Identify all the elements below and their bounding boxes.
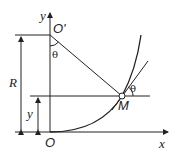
diagram: y x O O' R y M θ θ (0, 0, 177, 152)
radius-label: R (8, 75, 17, 90)
angle-arc-top (50, 42, 58, 46)
origin-label: O (45, 135, 55, 150)
point-label: M (118, 98, 129, 113)
height-label: y (25, 106, 33, 121)
y-axis-label: y (38, 8, 46, 23)
radius-line (50, 35, 122, 96)
angle-point-label: θ (130, 83, 136, 94)
x-axis-label: x (158, 136, 165, 151)
trajectory-curve (50, 35, 141, 132)
angle-top-label: θ (52, 49, 58, 60)
center-label: O' (53, 21, 66, 36)
